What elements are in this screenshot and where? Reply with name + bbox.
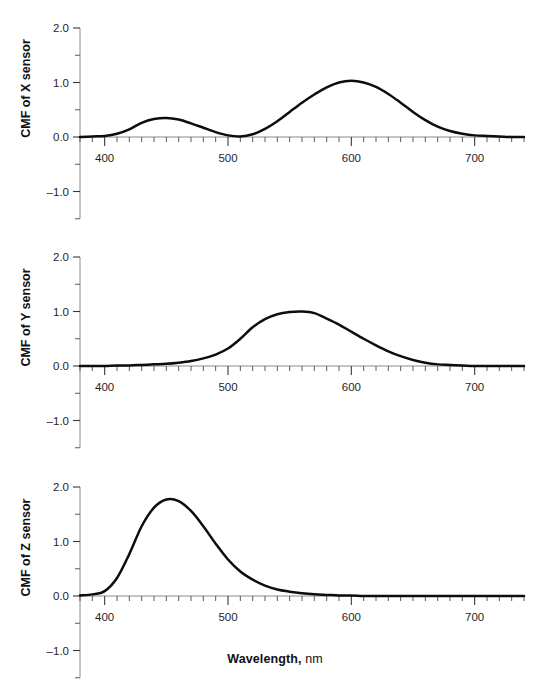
y-tick-label: 1.0 — [53, 77, 69, 89]
y-tick-label: 2.0 — [53, 251, 69, 263]
x-tick-label: 500 — [218, 611, 237, 623]
y-tick-label: 1.0 — [53, 536, 69, 548]
y-tick-label: 0.0 — [53, 360, 69, 372]
y-tick-label: 2.0 — [53, 481, 69, 493]
x-tick-label: 400 — [95, 381, 114, 393]
x-axis-label-main: Wavelength, — [227, 652, 301, 666]
x-tick-label: 500 — [218, 381, 237, 393]
plot-x_bar: –1.00.01.02.0400500600700CMF of X sensor — [0, 0, 550, 230]
y-tick-label: 1.0 — [53, 306, 69, 318]
x-tick-label: 400 — [95, 152, 114, 164]
x-tick-label: 600 — [342, 152, 361, 164]
y-axis-label: CMF of X sensor — [19, 39, 33, 138]
y-tick-label: –1.0 — [47, 415, 69, 427]
curve-z_bar — [80, 499, 524, 596]
y-axis-label: CMF of Y sensor — [19, 268, 33, 366]
x-tick-label: 700 — [465, 381, 484, 393]
y-tick-label: 0.0 — [53, 131, 69, 143]
x-tick-label: 600 — [342, 611, 361, 623]
chart-panel-x-sensor: –1.00.01.02.0400500600700CMF of X sensor — [0, 0, 550, 230]
x-tick-label: 700 — [465, 152, 484, 164]
x-axis-label: Wavelength, nm — [0, 652, 550, 666]
x-tick-label: 500 — [218, 152, 237, 164]
y-tick-label: 0.0 — [53, 590, 69, 602]
curve-x_bar — [80, 81, 524, 137]
figure-cmf-sensors: –1.00.01.02.0400500600700CMF of X sensor… — [0, 0, 550, 689]
y-tick-label: –1.0 — [47, 186, 69, 198]
plot-y_bar: –1.00.01.02.0400500600700CMF of Y sensor — [0, 229, 550, 459]
x-tick-label: 400 — [95, 611, 114, 623]
x-tick-label: 700 — [465, 611, 484, 623]
y-axis-label: CMF of Z sensor — [19, 498, 33, 596]
x-tick-label: 600 — [342, 381, 361, 393]
y-tick-label: 2.0 — [53, 22, 69, 34]
curve-y_bar — [80, 311, 524, 366]
chart-panel-y-sensor: –1.00.01.02.0400500600700CMF of Y sensor — [0, 229, 550, 459]
x-axis-label-unit: nm — [305, 652, 323, 666]
